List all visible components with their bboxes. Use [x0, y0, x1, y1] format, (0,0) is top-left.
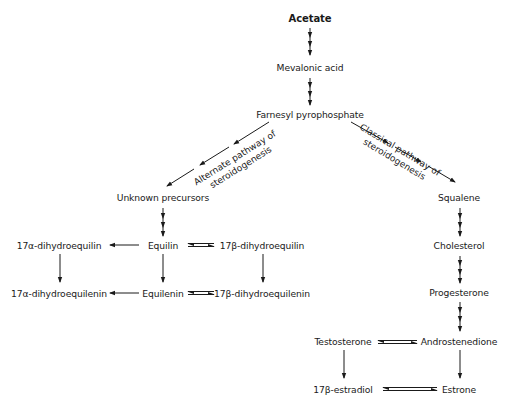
node-acetate: Acetate [289, 13, 332, 24]
equilibrium-estradiol-estrone [383, 388, 437, 391]
equilibrium-equilenin-17b-dihydroequilenin [188, 292, 214, 295]
equilibrium-testosterone-androstenedione [378, 341, 417, 344]
node-squalene: Squalene [438, 192, 480, 203]
node-mevalonic-acid: Mevalonic acid [277, 62, 344, 73]
node-17b-dihydroequilin: 17β-dihydroequilin [220, 240, 305, 251]
node-cholesterol: Cholesterol [434, 240, 485, 251]
node-testosterone: Testosterone [314, 336, 371, 347]
node-17a-dihydroequilin: 17α-dihydroequilin [17, 240, 102, 251]
pathway-arrows [0, 0, 511, 409]
node-progesterone: Progesterone [429, 287, 489, 298]
node-equilenin: Equilenin [142, 288, 184, 299]
node-androstenedione: Androstenedione [421, 336, 498, 347]
node-17a-dihydroequilenin: 17α-dihydroequilenin [11, 288, 107, 299]
node-17b-estradiol: 17β-estradiol [313, 384, 373, 395]
equilibrium-equilin-17b-dihydroequilin [188, 244, 214, 247]
node-17b-dihydroequilenin: 17β-dihydroequilenin [214, 288, 310, 299]
node-estrone: Estrone [442, 384, 476, 395]
node-equilin: Equilin [148, 240, 178, 251]
